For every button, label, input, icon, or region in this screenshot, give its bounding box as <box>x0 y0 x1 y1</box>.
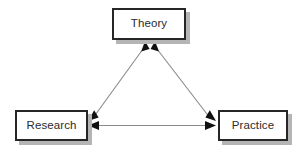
arrowhead-into-practice-diagonal <box>205 110 216 121</box>
node-practice-label: Practice <box>232 120 274 132</box>
edge-research-practice <box>88 121 216 130</box>
node-research[interactable]: Research <box>15 110 88 141</box>
arrowhead-into-theory-right <box>151 41 159 52</box>
node-research-label: Research <box>26 120 76 132</box>
arrowhead-into-research-horizontal <box>88 121 99 130</box>
node-theory[interactable]: Theory <box>112 8 186 40</box>
edge-research-theory <box>88 41 150 121</box>
arrowhead-into-practice-horizontal <box>205 121 216 130</box>
edge-research-theory-line <box>93 49 143 118</box>
diagram-canvas: Theory Research Practice <box>0 0 304 153</box>
edge-theory-practice <box>151 41 216 121</box>
edge-theory-practice-line <box>157 49 210 118</box>
arrowhead-into-theory-left <box>141 41 149 52</box>
node-theory-label: Theory <box>131 18 167 30</box>
node-practice[interactable]: Practice <box>218 110 288 141</box>
